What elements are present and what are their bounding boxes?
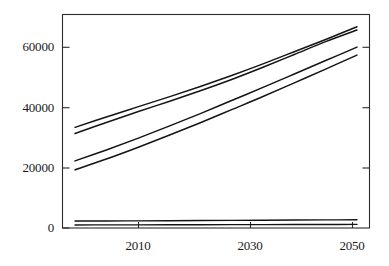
x-axis-label-2050: 2050 — [322, 238, 382, 254]
y-axis-label-60000: 60000 — [6, 39, 54, 55]
y-axis-label-20000: 20000 — [6, 160, 54, 176]
series-line-flat-band-high — [75, 220, 357, 221]
line-chart: 60000 40000 20000 0 2010 2030 2050 — [0, 0, 389, 266]
x-axis-label-2010: 2010 — [108, 238, 168, 254]
series-line-lower-band-low — [75, 55, 357, 170]
y-tick-marks-right — [363, 47, 370, 168]
y-tick-marks — [63, 47, 70, 228]
y-axis-label-0: 0 — [6, 220, 54, 236]
series-line-lower-band-high — [75, 47, 357, 161]
x-axis-label-2030: 2030 — [220, 238, 280, 254]
chart-canvas — [0, 0, 389, 266]
series-line-upper-band-high — [75, 27, 357, 128]
series-line-flat-band-low — [75, 224, 357, 225]
y-axis-label-40000: 40000 — [6, 100, 54, 116]
series-group — [75, 27, 357, 225]
